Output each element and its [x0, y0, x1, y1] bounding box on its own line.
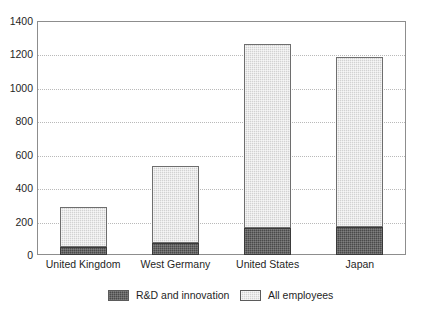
- bar-segment[interactable]: [152, 243, 199, 255]
- bar-segment[interactable]: [244, 44, 291, 229]
- y-tick-label: 200: [15, 216, 33, 227]
- bar-group[interactable]: [336, 21, 383, 255]
- stacked-bar-chart: 1400120010008006004002000 United Kingdom…: [0, 0, 424, 321]
- y-tick-label: 1400: [10, 16, 33, 27]
- x-tick-label: Japan: [346, 258, 375, 271]
- bars-layer: [37, 21, 406, 255]
- chart-legend: R&D and innovationAll employees: [37, 288, 406, 304]
- x-tick-label: United Kingdom: [46, 258, 121, 271]
- legend-swatch-icon: [108, 290, 129, 301]
- legend-item[interactable]: R&D and innovation: [108, 288, 229, 302]
- x-tick-label: West Germany: [140, 258, 210, 271]
- bar-group[interactable]: [152, 21, 199, 255]
- bar-segment[interactable]: [60, 247, 107, 255]
- y-tick-label: 1200: [10, 49, 33, 60]
- bar-segment[interactable]: [336, 57, 383, 227]
- x-tick-label: United States: [236, 258, 299, 271]
- y-tick-label: 0: [27, 250, 33, 261]
- legend-swatch-icon: [240, 290, 261, 301]
- bar-group[interactable]: [60, 21, 107, 255]
- x-axis: United KingdomWest GermanyUnited StatesJ…: [37, 258, 406, 274]
- bar-segment[interactable]: [152, 166, 199, 243]
- legend-label: All employees: [268, 289, 333, 301]
- y-axis: 1400120010008006004002000: [0, 21, 33, 255]
- y-tick-label: 400: [15, 183, 33, 194]
- y-tick-label: 600: [15, 149, 33, 160]
- bar-segment[interactable]: [60, 207, 107, 247]
- bar-segment[interactable]: [336, 227, 383, 255]
- bar-group[interactable]: [244, 21, 291, 255]
- y-tick-label: 1000: [10, 82, 33, 93]
- legend-item[interactable]: All employees: [240, 288, 333, 302]
- y-tick-label: 800: [15, 116, 33, 127]
- legend-label: R&D and innovation: [136, 289, 229, 301]
- bar-segment[interactable]: [244, 228, 291, 255]
